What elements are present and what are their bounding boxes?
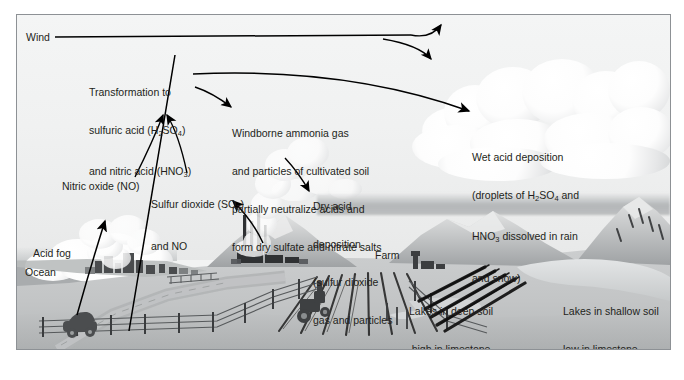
sulfur-dioxide-line-1: Sulfur dioxide (SO2) xyxy=(151,198,244,214)
diagram-frame: Wind Transformation to sulfuric acid (H2… xyxy=(16,14,671,350)
dry-acid-line-1: Dry acid xyxy=(313,200,392,213)
label-farm: Farm xyxy=(375,249,400,262)
diagram-canvas: Wind Transformation to sulfuric acid (H2… xyxy=(0,0,684,380)
wet-acid-line-2: (droplets of H2SO4 and xyxy=(472,189,579,205)
label-ocean: Ocean xyxy=(25,266,56,279)
lakes-shallow-line-1: Lakes in shallow soil xyxy=(563,305,659,318)
car-emission-arrow xyxy=(77,221,105,315)
lakes-deep-line-2: high in limestone xyxy=(409,343,493,350)
label-sulfur-dioxide: Sulfur dioxide (SO2) and NO xyxy=(151,173,244,277)
transformation-to-windborne-arrow xyxy=(195,87,231,107)
label-wind: Wind xyxy=(26,31,50,44)
wind-arrow-down xyxy=(383,39,431,59)
wind-line xyxy=(55,35,411,37)
label-nitric-oxide: Nitric oxide (NO) xyxy=(62,180,140,193)
lakes-shallow-line-2: low in limestone xyxy=(563,343,659,350)
sulfur-dioxide-line-2: and NO xyxy=(151,240,244,253)
wet-acid-line-3: HNO3 dissolved in rain xyxy=(472,230,579,246)
label-acid-fog: Acid fog xyxy=(33,247,71,260)
lakes-deep-line-1: Lakes in deep soil xyxy=(409,305,493,318)
transformation-line-2: sulfuric acid (H2SO4) xyxy=(89,124,191,140)
dry-acid-line-3: (sulfur dioxide xyxy=(313,276,392,289)
label-dry-acid-deposition: Dry acid deposition (sulfur dioxide gas … xyxy=(313,175,392,350)
label-lakes-shallow-soil: Lakes in shallow soil low in limestone b… xyxy=(563,280,659,350)
windborne-line-1: Windborne ammonia gas xyxy=(232,127,381,140)
wind-arrow-up xyxy=(411,25,441,36)
wet-acid-line-1: Wet acid deposition xyxy=(472,151,579,164)
label-lakes-deep-soil: Lakes in deep soil high in limestone are… xyxy=(409,280,493,350)
transformation-line-1: Transformation to xyxy=(89,86,191,99)
dry-acid-line-4: gas and particles xyxy=(313,314,392,327)
